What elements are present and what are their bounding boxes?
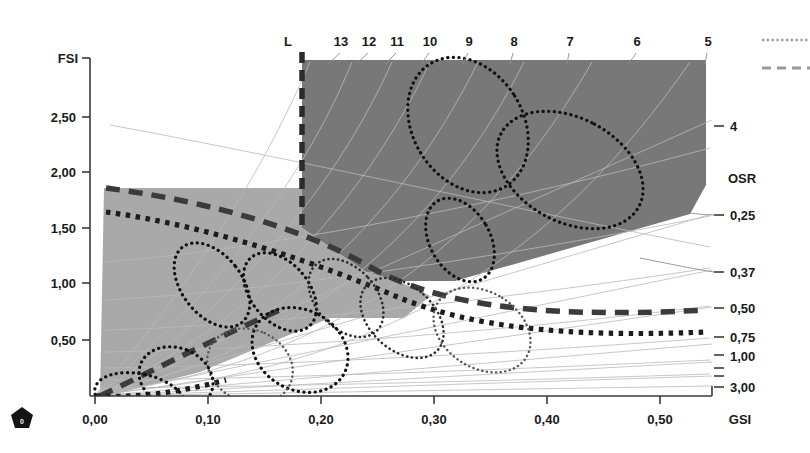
right-tick-label-037: 0,37 — [730, 265, 755, 280]
top-tick-label-8: 8 — [510, 34, 517, 49]
right-tick-label-025: 0,25 — [730, 208, 755, 223]
x-tick-label-010: 0,10 — [195, 412, 220, 427]
top-tick-label-11: 11 — [390, 34, 404, 49]
x-tick-label-000: 0,00 — [82, 412, 107, 427]
badge-label: 0 — [20, 418, 24, 425]
spacemate-diagram: FSI 2,50 2,00 1,50 1,00 0,50 0,00 0,10 0… — [0, 0, 810, 453]
top-tick-label-5: 5 — [704, 34, 711, 49]
right-tick-label-300: 3,00 — [730, 380, 755, 395]
y-tick-label-150: 1,50 — [51, 221, 76, 236]
top-tick-label-12: 12 — [362, 34, 376, 49]
right-axis-title: OSR — [728, 171, 757, 186]
x-tick-label-050: 0,50 — [647, 412, 672, 427]
x-tick-label-040: 0,40 — [534, 412, 559, 427]
top-tick-label-10: 10 — [423, 34, 437, 49]
top-tick-label-7: 7 — [566, 34, 573, 49]
y-axis-title: FSI — [58, 51, 78, 66]
x-tick-label-020: 0,20 — [308, 412, 333, 427]
spacemate-svg: FSI 2,50 2,00 1,50 1,00 0,50 0,00 0,10 0… — [0, 0, 810, 453]
y-tick-label-050: 0,50 — [51, 333, 76, 348]
top-tick-label-9: 9 — [465, 34, 472, 49]
right-tick-label-050: 0,50 — [730, 301, 755, 316]
x-tick-label-030: 0,30 — [421, 412, 446, 427]
y-tick-label-250: 2,50 — [51, 110, 76, 125]
x-axis-title: GSI — [729, 412, 751, 427]
y-tick-label-200: 2,00 — [51, 165, 76, 180]
right-tick-label-4: 4 — [730, 119, 738, 134]
top-tick-label-13: 13 — [334, 34, 348, 49]
right-tick-label-100: 1,00 — [730, 349, 755, 364]
right-tick-label-075: 0,75 — [730, 330, 755, 345]
y-tick-label-100: 1,00 — [51, 276, 76, 291]
top-axis-title: L — [284, 34, 292, 49]
top-tick-label-6: 6 — [633, 34, 640, 49]
